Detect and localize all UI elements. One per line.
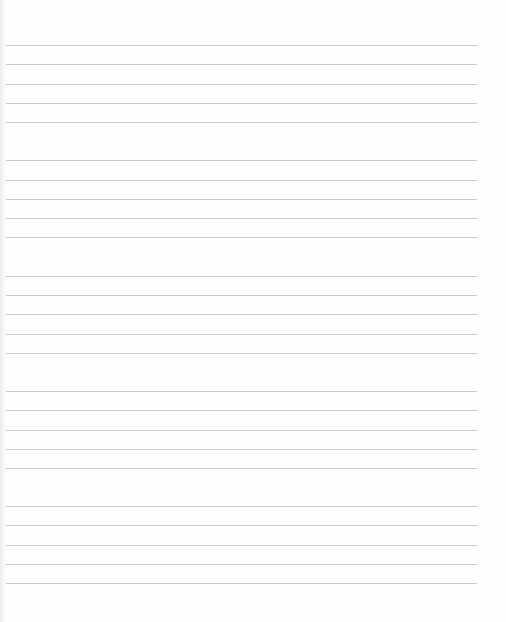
lined-page [0, 0, 506, 622]
ruled-line [6, 449, 477, 450]
ruled-line [6, 506, 477, 507]
ruled-line [6, 295, 477, 296]
ruled-line [6, 430, 477, 431]
ruled-line [6, 64, 477, 65]
ruled-line [6, 103, 477, 104]
ruled-line [6, 391, 477, 392]
ruled-line [6, 564, 477, 565]
ruled-line [6, 410, 477, 411]
ruled-line [6, 237, 477, 238]
ruled-line [6, 84, 477, 85]
ruled-line [6, 180, 477, 181]
ruled-line [6, 199, 477, 200]
ruled-line [6, 468, 477, 469]
ruled-line [6, 45, 477, 46]
ruled-line [6, 122, 477, 123]
ruled-line [6, 353, 477, 354]
ruled-line [6, 545, 477, 546]
scan-edge-shadow [0, 0, 6, 622]
ruled-line [6, 218, 477, 219]
ruled-line [6, 160, 477, 161]
ruled-line [6, 314, 477, 315]
ruled-line [6, 525, 477, 526]
ruled-line [6, 276, 477, 277]
ruled-line [6, 334, 477, 335]
ruled-line [6, 583, 477, 584]
